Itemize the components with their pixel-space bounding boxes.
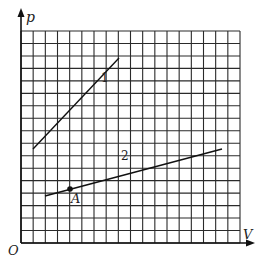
line-1-label: 1: [101, 71, 109, 85]
y-axis-arrow-icon: [18, 8, 25, 17]
origin-label: O: [8, 243, 19, 258]
y-axis-label: p: [26, 9, 35, 25]
pv-diagram: p V O 1 2 A: [0, 0, 266, 266]
grid: [21, 31, 240, 243]
point-a-label: A: [70, 191, 80, 206]
x-axis-label: V: [243, 227, 254, 242]
line-2-label: 2: [121, 149, 129, 163]
